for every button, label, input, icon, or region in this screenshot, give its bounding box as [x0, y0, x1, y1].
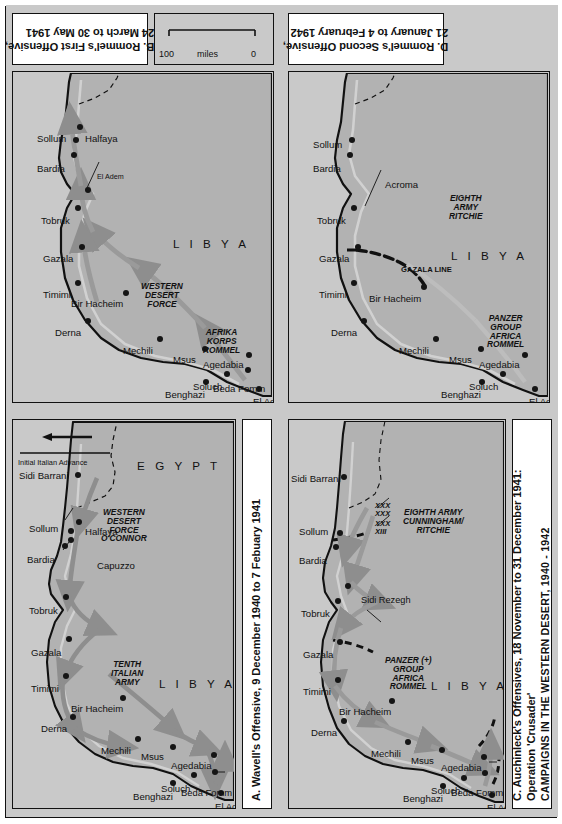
city-dot-sidi-barrani: [341, 474, 347, 480]
city-dot-halfaya: [77, 124, 83, 130]
panel-b-title-line2: 24 March to 30 May 1941: [6, 25, 154, 39]
label-bir-hacheim: Bir Hacheim: [71, 704, 123, 714]
panel-d-map: El Agheila Agedabia Soluch Benghazi Msus…: [288, 71, 550, 403]
label-sollum: Sollum: [313, 140, 342, 150]
city-dot-sollum: [349, 137, 355, 143]
panel-d-rommels-second-offensive: El Agheila Agedabia Soluch Benghazi Msus…: [280, 5, 558, 411]
country-label-libya: L I B Y A: [431, 680, 506, 692]
label-tobruk: Tobruk: [317, 216, 346, 226]
force-label-panzer-group-africa: PANZER GROUP AFRICA ROMMEL: [487, 314, 524, 349]
label-bardia: Bardia: [27, 555, 55, 565]
panel-b-map: El Agheila Agedabia Beda Fomm Soluch Ben…: [12, 71, 274, 403]
label-el-agheila: El Agheila: [215, 802, 236, 809]
city-dot-tobruk: [351, 205, 357, 211]
city-dot-soluch: [191, 772, 197, 778]
panel-a-map: El Agheila Agedabia Beda Fomm Soluch Ben…: [12, 419, 236, 809]
force-label-eighth-army: EIGHTH ARMY CUNNINGHAM/ RITCHIE: [403, 508, 463, 534]
unit-symbol-xiii: XXX XIII: [375, 520, 390, 536]
label-bir-hacheim: Bir Hacheim: [369, 294, 421, 304]
panel-b-title-line1: B. Rommel's First Offensive,: [6, 39, 154, 53]
force-label-western-desert-force: WESTERN DESERT FORCE O'CONNOR: [101, 508, 147, 543]
city-dot-timimi: [63, 673, 69, 679]
label-el-agheila: El Agheila: [253, 397, 274, 403]
label-bir-hacheim: Bir Hacheim: [71, 299, 123, 309]
city-dot-bir-hacheim: [421, 284, 427, 290]
label-derna: Derna: [55, 328, 81, 338]
label-agedabia: Agedabia: [479, 360, 520, 370]
city-dot-derna: [85, 318, 91, 324]
panel-c-auchinlecks-offensives: El Agheila Agedabia Beda Fomm Soluch Ben…: [280, 411, 558, 817]
city-dot-gazala: [66, 636, 72, 642]
label-derna: Derna: [311, 728, 337, 738]
label-sollum: Sollum: [299, 527, 328, 537]
force-label-western-desert-force: WESTERN DESERT FORCE: [141, 282, 183, 308]
city-dot-gazala: [355, 244, 361, 250]
force-line: RITCHIE: [416, 525, 450, 535]
unit-name: XIII: [375, 527, 386, 536]
plate-caption: CAMPAIGNS IN THE WESTERN DESERT, 1940 - …: [539, 427, 552, 801]
force-label-afrika-korps: AFRIKA KORPS ROMMEL: [203, 328, 240, 354]
city-dot-mechili: [157, 336, 163, 342]
label-tobruk: Tobruk: [29, 606, 58, 616]
label-agedabia: Agedabia: [203, 360, 244, 370]
label-msus: Msus: [449, 355, 472, 365]
label-timimi: Timimi: [319, 290, 347, 300]
panel-d-title-line2: 21 January to 4 February 1942: [283, 25, 448, 39]
label-timimi: Timimi: [303, 687, 331, 697]
label-timimi: Timimi: [31, 684, 59, 694]
force-label-tenth-italian-army: TENTH ITALIAN ARMY: [111, 660, 143, 686]
label-msus: Msus: [411, 756, 434, 766]
panel-d-title-line1: D. Rommel's Second Offensive,: [283, 39, 448, 53]
city-dot-sollum: [337, 530, 343, 536]
country-label-libya: L I B Y A: [159, 678, 236, 690]
legend-initial-italian-advance: Initial Italian Advance: [14, 419, 134, 461]
city-dot-el-agheila: [532, 386, 538, 392]
label-sidi-barrani: Sidi Barrani: [19, 471, 69, 481]
city-dot-halfaya: [76, 519, 82, 525]
city-dot-derna: [70, 714, 76, 720]
city-dot-mechili: [405, 739, 411, 745]
scale-zero-label: 0: [251, 50, 256, 59]
city-dot-bir-hacheim: [389, 698, 395, 704]
city-dot-tobruk: [335, 598, 341, 604]
panel-d-title-plaque: D. Rommel's Second Offensive, 21 January…: [288, 13, 444, 65]
city-dot-mechili: [135, 736, 141, 742]
label-benghazi: Benghazi: [133, 792, 173, 802]
map-plate-page: El Agheila Agedabia Beda Fomm Soluch Ben…: [0, 0, 562, 824]
city-dot-soluch: [500, 371, 506, 377]
label-bardia: Bardia: [299, 556, 327, 566]
city-dot-beda-fomm: [482, 770, 488, 776]
panel-a-title-plaque: A. Wavell's Offensive, 9 December 1940 t…: [242, 419, 272, 809]
panel-c-title-line1: C. Auchinleck's Offensives, 18 November …: [511, 427, 525, 801]
label-el-agheila: El Agheila: [487, 803, 506, 809]
city-dot-bardia: [347, 152, 353, 158]
force-line: ARMY: [115, 677, 140, 687]
city-dot-bardia: [62, 543, 68, 549]
scale-bar: 0 miles 100: [154, 13, 274, 65]
force-line: ROMMEL: [203, 345, 240, 355]
city-dot-timimi: [335, 677, 341, 683]
city-dot-gazala: [79, 244, 85, 250]
city-dot-mechili: [433, 336, 439, 342]
city-dot-bir-hacheim: [123, 290, 129, 296]
label-gazala: Gazala: [319, 254, 349, 264]
scale-unit-label: miles: [197, 50, 218, 59]
label-sollum: Sollum: [29, 524, 58, 534]
label-tobruk: Tobruk: [41, 216, 70, 226]
label-gazala: Gazala: [303, 650, 333, 660]
city-dot-capuzzo: [68, 537, 74, 543]
label-benghazi: Benghazi: [403, 794, 443, 804]
label-el-agheila: El Agheila: [529, 397, 550, 403]
label-gazala: Gazala: [31, 648, 61, 658]
rotated-plate: El Agheila Agedabia Beda Fomm Soluch Ben…: [0, 0, 562, 824]
label-mechili: Mechili: [123, 346, 153, 356]
force-line: RITCHIE: [449, 211, 483, 221]
city-dot-agedabia: [481, 754, 487, 760]
label-mechili: Mechili: [101, 746, 131, 756]
city-dot-agedabia: [211, 752, 217, 758]
label-agedabia: Agedabia: [441, 763, 482, 773]
label-msus: Msus: [141, 752, 164, 762]
force-line: FORCE: [147, 299, 176, 309]
country-label-egypt: E G Y P T: [137, 460, 221, 472]
city-dot-gazala: [337, 639, 343, 645]
